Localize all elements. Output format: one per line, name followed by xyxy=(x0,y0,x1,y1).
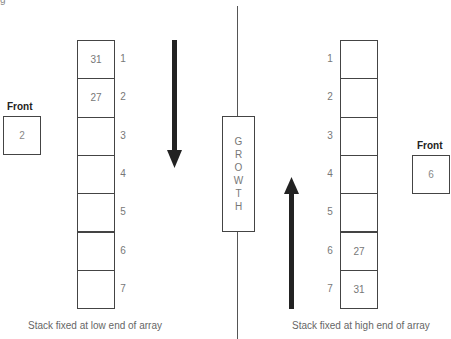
right-front-label: Front xyxy=(417,140,443,151)
growth-letter: T xyxy=(235,187,241,200)
growth-letter: G xyxy=(235,135,243,148)
stack-cell xyxy=(340,117,378,156)
stack-index: 1 xyxy=(324,53,336,64)
growth-letter: O xyxy=(235,161,243,174)
stack-index: 7 xyxy=(324,283,336,294)
stack-cell xyxy=(77,270,115,309)
stack-index: 4 xyxy=(117,168,129,179)
stack-cell xyxy=(340,193,378,232)
right-caption: Stack fixed at high end of array xyxy=(292,320,430,331)
stack-index: 4 xyxy=(324,168,336,179)
partial-caption: g xyxy=(0,0,6,5)
stack-cell xyxy=(340,155,378,194)
stack-cell xyxy=(77,193,115,232)
up-arrow-icon xyxy=(283,175,301,311)
growth-letter: W xyxy=(234,174,243,187)
stack-cell: 27 xyxy=(340,232,378,271)
stack-index: 3 xyxy=(117,130,129,141)
stack-cell xyxy=(340,40,378,79)
stack-index: 5 xyxy=(117,206,129,217)
stack-index: 7 xyxy=(117,283,129,294)
stack-index: 6 xyxy=(117,245,129,256)
stack-index: 3 xyxy=(324,130,336,141)
stack-index: 1 xyxy=(117,53,129,64)
stack-index: 5 xyxy=(324,206,336,217)
stack-cell xyxy=(77,117,115,156)
stack-index: 2 xyxy=(324,91,336,102)
left-caption: Stack fixed at low end of array xyxy=(28,320,162,331)
stack-cell xyxy=(77,232,115,271)
stack-cell: 31 xyxy=(340,270,378,309)
down-arrow-icon xyxy=(166,38,184,172)
stack-index: 6 xyxy=(324,245,336,256)
stack-cell xyxy=(340,78,378,117)
stack-cell: 31 xyxy=(77,40,115,79)
growth-box: GROWTH xyxy=(222,116,255,232)
growth-letter: H xyxy=(235,200,242,213)
stack-index: 2 xyxy=(117,91,129,102)
left-front-label: Front xyxy=(7,101,33,112)
right-front-box: 6 xyxy=(412,155,450,194)
growth-letter: R xyxy=(235,148,242,161)
stack-cell xyxy=(77,155,115,194)
left-front-box: 2 xyxy=(3,116,41,155)
stack-cell: 27 xyxy=(77,78,115,117)
